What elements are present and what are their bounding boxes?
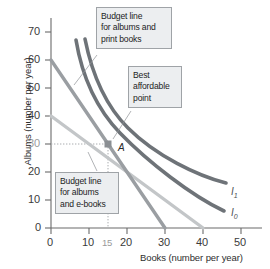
x-tick-label-40: 40 [196, 236, 208, 248]
x-tick-label-50: 50 [234, 236, 246, 248]
callout-best-affordable-point: Best affordable point [128, 66, 182, 108]
y-tick-label-70: 70 [28, 25, 40, 37]
y-tick-label-10: 10 [28, 193, 40, 205]
x-axis-ticks [51, 228, 241, 234]
indifference-curve-i1 [85, 39, 226, 183]
best-affordable-point-marker [105, 141, 112, 148]
curve-label-i1: I1 [231, 186, 238, 199]
x-tick-label-15: 15 [102, 237, 112, 248]
chart-figure: 70 60 50 40 30 20 10 0 0 10 15 20 30 40 … [0, 0, 270, 269]
x-tick-label-10: 10 [82, 236, 94, 248]
leader-line-ebooks [88, 152, 97, 171]
x-tick-label-30: 30 [158, 236, 170, 248]
y-axis-title: Albums (number per year) [22, 47, 33, 177]
x-tick-label-20: 20 [120, 236, 132, 248]
x-tick-label-0: 0 [47, 236, 53, 248]
curve-label-i0-sub: 0 [234, 213, 238, 220]
callout-budget-line-print-books: Budget line for albums and print books [96, 7, 172, 49]
callout-budget-line-ebooks: Budget line for albums and e-books [55, 172, 119, 214]
x-axis-title: Books (number per year) [140, 252, 243, 263]
point-label-a: A [118, 142, 125, 153]
y-tick-label-0: 0 [35, 221, 41, 233]
curve-label-i1-sub: 1 [234, 192, 238, 199]
curve-label-i0: I0 [231, 207, 238, 220]
